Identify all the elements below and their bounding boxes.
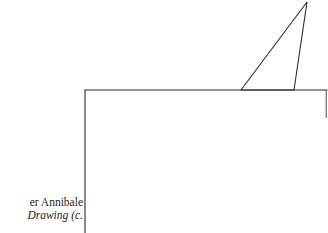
rectangle-outline	[85, 90, 327, 233]
triangle-shape	[241, 2, 307, 90]
document-page: er Annibale Drawing (c.	[0, 0, 328, 233]
caption-block: er Annibale Drawing (c.	[0, 196, 86, 222]
caption-line-1: er Annibale	[0, 196, 86, 209]
caption-line-2: Drawing (c.	[0, 209, 86, 222]
